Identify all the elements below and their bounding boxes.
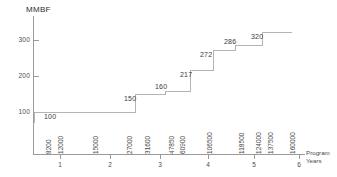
- step-riser-0: [34, 112, 35, 123]
- volume-label-holder-3: 27000: [133, 126, 141, 154]
- volume-label-137500: 137500: [267, 132, 274, 154]
- volume-label-106500: 106500: [206, 132, 213, 154]
- step-value-3: 217: [180, 71, 192, 78]
- volume-label-124000: 124000: [255, 132, 262, 154]
- step-value-2: 160: [155, 83, 167, 90]
- step-value-1: 150: [124, 95, 136, 102]
- volume-label-31600: 31600: [144, 136, 151, 154]
- step-value-5: 286: [224, 38, 236, 45]
- volume-label-160000: 160000: [289, 132, 296, 154]
- volume-label-60900: 60900: [179, 136, 186, 154]
- volume-label-holder-11: 160000: [296, 126, 304, 154]
- step-tread-5: [235, 45, 262, 46]
- volume-label-118500: 118500: [238, 133, 245, 154]
- volume-label-12000: 12000: [57, 136, 64, 154]
- volume-label-27000: 27000: [126, 136, 133, 154]
- step-value-6: 320: [251, 33, 263, 40]
- volume-label-holder-2: 15000: [99, 126, 107, 154]
- step-chart: MMBF 300 200 100 1 2 3 4 5 6 Program Yea…: [0, 0, 337, 177]
- step-tread-4: [213, 50, 235, 51]
- volume-label-holder-8: 118500: [245, 126, 253, 154]
- volume-label-holder-7: 106500: [213, 126, 221, 154]
- step-tread-6: [262, 32, 292, 33]
- volume-label-holder-4: 31600: [151, 126, 159, 154]
- volume-label-holder-1: 12000: [64, 126, 72, 154]
- step-tread-1: [135, 94, 165, 95]
- volume-label-15000: 15000: [92, 136, 99, 154]
- step-value-0: 100: [44, 113, 56, 120]
- step-riser-4: [213, 50, 214, 71]
- volume-label-8200: 8200: [45, 139, 52, 154]
- step-tread-2: [165, 91, 190, 92]
- volume-label-holder-6: 60900: [186, 126, 194, 154]
- volume-label-holder-10: 137500: [274, 126, 282, 154]
- step-tread-3: [190, 70, 213, 71]
- volume-label-47850: 47850: [168, 136, 175, 154]
- step-value-4: 272: [200, 51, 212, 58]
